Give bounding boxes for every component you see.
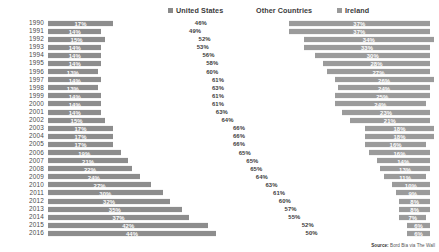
legend-swatch-icon-other-countries — [248, 8, 253, 13]
bar-segment-other-countries: 61% — [163, 189, 396, 196]
bar-segment-ireland: 8% — [399, 198, 430, 205]
chart-row: 201542%52%6% — [0, 221, 439, 229]
bar-segment-other-countries: 56% — [101, 52, 315, 59]
chart-row: 200417%66%18% — [0, 132, 439, 140]
row-bar-track: 44%50%6% — [48, 230, 430, 237]
bar-segment-other-countries: 64% — [105, 117, 349, 124]
row-bar-track: 14%63%23% — [48, 109, 430, 116]
row-year-label: 2010 — [18, 181, 44, 189]
bar-segment-united-states: 15% — [48, 36, 105, 43]
chart-row: 201644%50%6% — [0, 229, 439, 237]
row-year-label: 2006 — [18, 149, 44, 157]
bar-segment-value: 66% — [113, 133, 365, 140]
chart-row: 200619%65%16% — [0, 149, 439, 157]
row-year-label: 2002 — [18, 116, 44, 124]
row-year-label: 2007 — [18, 157, 44, 165]
bar-segment-ireland: 9% — [396, 189, 430, 196]
bar-segment-united-states: 42% — [48, 222, 208, 229]
bar-segment-ireland: 28% — [323, 60, 430, 67]
bar-segment-other-countries: 61% — [101, 100, 334, 107]
row-year-label: 2008 — [18, 165, 44, 173]
bar-segment-value: 61% — [163, 189, 396, 196]
row-year-label: 2014 — [18, 213, 44, 221]
bar-segment-other-countries: 46% — [113, 20, 289, 27]
row-bar-track: 14%58%28% — [48, 60, 430, 67]
row-bar-track: 17%66%18% — [48, 125, 430, 132]
row-year-label: 1999 — [18, 92, 44, 100]
bar-segment-value: 55% — [189, 214, 399, 221]
chart-row: 200215%64%21% — [0, 116, 439, 124]
bar-segment-value: 49% — [101, 28, 288, 35]
bar-segment-ireland: 30% — [315, 52, 430, 59]
bar-segment-united-states: 14% — [48, 44, 101, 51]
chart-rows: 199017%46%37%199114%49%37%199215%52%34%1… — [0, 19, 439, 238]
bar-segment-united-states: 35% — [48, 206, 182, 213]
chart-row: 200114%63%23% — [0, 108, 439, 116]
bar-segment-ireland: 6% — [407, 230, 430, 237]
chart-row: 199914%61%25% — [0, 92, 439, 100]
chart-row: 199017%46%37% — [0, 19, 439, 27]
legend-item-ireland: Ireland — [337, 4, 369, 16]
source-note: Source: Bord Bia via The Wall — [371, 243, 435, 249]
bar-segment-united-states: 44% — [48, 230, 216, 237]
row-year-label: 2004 — [18, 132, 44, 140]
bar-segment-other-countries: 49% — [101, 28, 288, 35]
bar-segment-other-countries: 60% — [170, 198, 399, 205]
row-bar-track: 35%57%8% — [48, 206, 430, 213]
chart-row: 199714%61%26% — [0, 76, 439, 84]
row-year-label: 2000 — [18, 100, 44, 108]
row-bar-track: 42%52%6% — [48, 222, 430, 229]
bar-segment-ireland: 14% — [377, 157, 430, 164]
bar-segment-value: 63% — [101, 109, 342, 116]
row-bar-track: 15%64%21% — [48, 117, 430, 124]
bar-segment-united-states: 17% — [48, 141, 113, 148]
bar-segment-united-states: 14% — [48, 100, 101, 107]
row-bar-track: 17%46%37% — [48, 20, 430, 27]
row-year-label: 2009 — [18, 173, 44, 181]
bar-segment-ireland: 11% — [384, 173, 426, 180]
bar-segment-united-states: 14% — [48, 52, 101, 59]
bar-segment-ireland: 6% — [407, 222, 430, 229]
bar-segment-united-states: 14% — [48, 92, 101, 99]
row-bar-track: 13%60%27% — [48, 68, 430, 75]
row-year-label: 1990 — [18, 19, 44, 27]
bar-segment-united-states: 32% — [48, 198, 170, 205]
row-year-label: 1998 — [18, 84, 44, 92]
bar-segment-value: 53% — [101, 44, 303, 51]
chart-row: 201437%55%7% — [0, 213, 439, 221]
source-prefix: Source: — [371, 243, 388, 248]
chart-row: 199215%52%34% — [0, 35, 439, 43]
bar-segment-other-countries: 61% — [101, 92, 334, 99]
row-bar-track: 21%65%14% — [48, 157, 430, 164]
legend-swatch-icon-united-states — [168, 8, 173, 13]
legend-swatch-icon-ireland — [337, 8, 342, 13]
row-year-label: 2011 — [18, 189, 44, 197]
bar-segment-ireland: 37% — [289, 20, 430, 27]
bar-segment-united-states: 21% — [48, 157, 128, 164]
row-bar-track: 13%63%24% — [48, 84, 430, 91]
row-bar-track: 14%56%30% — [48, 52, 430, 59]
bar-segment-ireland: 10% — [392, 181, 430, 188]
chart-row: 199114%49%37% — [0, 27, 439, 35]
bar-segment-value: 66% — [113, 125, 365, 132]
bar-segment-other-countries: 63% — [98, 84, 339, 91]
bar-segment-united-states: 14% — [48, 109, 101, 116]
bar-segment-value: 46% — [113, 20, 289, 27]
bar-segment-united-states: 13% — [48, 68, 98, 75]
bar-segment-ireland: 13% — [380, 165, 430, 172]
row-year-label: 1994 — [18, 51, 44, 59]
bar-segment-united-states: 24% — [48, 173, 140, 180]
chart-row: 199813%63%24% — [0, 84, 439, 92]
bar-segment-other-countries: 66% — [113, 141, 365, 148]
bar-segment-united-states: 17% — [48, 133, 113, 140]
bar-segment-other-countries: 53% — [101, 44, 303, 51]
row-bar-track: 14%61%24% — [48, 100, 430, 107]
bar-segment-other-countries: 65% — [128, 157, 376, 164]
chart-row: 199314%53%33% — [0, 43, 439, 51]
bar-segment-value: 65% — [121, 149, 369, 156]
row-bar-track: 14%53%33% — [48, 44, 430, 51]
bar-segment-other-countries: 52% — [208, 222, 407, 229]
bar-segment-other-countries: 66% — [113, 133, 365, 140]
source-text: Bord Bia via The Wall — [390, 243, 435, 248]
bar-segment-ireland: 18% — [365, 125, 434, 132]
